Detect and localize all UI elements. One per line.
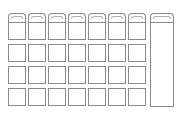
grid-cell [128,66,146,84]
tab-highlight [91,16,103,19]
grid-cell [48,22,66,40]
tab-highlight [11,16,23,19]
column-header-tab [128,13,146,22]
grid-cell [128,22,146,40]
column-header-tab [28,13,46,22]
grid-cell [88,22,106,40]
grid-cell [88,88,106,106]
grid-cell [48,88,66,106]
side-panel-tab [150,13,174,22]
grid-cell [68,22,86,40]
grid-cell [28,88,46,106]
tab-highlight [111,16,123,19]
column-header-tab [68,13,86,22]
grid-cell [108,44,126,62]
grid-cell [88,44,106,62]
tab-highlight [51,16,63,19]
grid-cell [128,44,146,62]
column-header-tab [88,13,106,22]
grid-cell [108,66,126,84]
wireframe-grid [0,0,182,118]
grid-cell [8,88,26,106]
grid-cell [28,44,46,62]
grid-cell [108,88,126,106]
side-panel [150,22,174,107]
grid-cell [28,22,46,40]
grid-cell [108,22,126,40]
grid-cell [68,88,86,106]
tab-highlight [71,16,83,19]
grid-cell [8,22,26,40]
column-header-tab [8,13,26,22]
grid-cell [128,88,146,106]
grid-cell [8,44,26,62]
grid-cell [68,66,86,84]
column-header-tab [108,13,126,22]
grid-cell [68,44,86,62]
tab-highlight [31,16,43,19]
grid-cell [8,66,26,84]
grid-cell [28,66,46,84]
tab-highlight [131,16,143,19]
grid-cell [88,66,106,84]
grid-cell [48,66,66,84]
grid-cell [48,44,66,62]
column-header-tab [48,13,66,22]
tab-highlight [153,16,171,19]
